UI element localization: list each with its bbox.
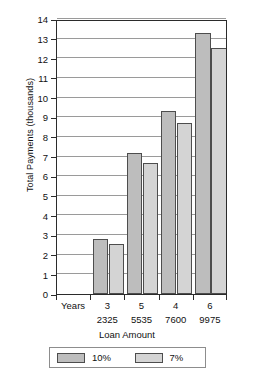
bars-layer — [57, 21, 226, 294]
y-axis-tick-label: 3 — [43, 231, 48, 241]
plot-area — [56, 20, 227, 295]
legend: 10%7% — [49, 347, 206, 368]
bar — [161, 111, 177, 294]
y-axis-ticks: 01234567891011121314 — [0, 20, 56, 295]
y-axis-tick: 11 — [38, 73, 56, 85]
y-axis-tick: 13 — [37, 34, 56, 46]
x-axis-years-value: 3 — [97, 300, 118, 311]
y-axis-tick-label: 9 — [43, 113, 48, 123]
bar-chart: Total Payments (thousands) 0123456789101… — [0, 0, 254, 375]
x-axis-title: Loan Amount — [0, 329, 254, 340]
y-axis-tick: 10 — [37, 93, 56, 105]
y-axis-tick: 5 — [43, 191, 56, 203]
x-axis-loan-amount-value: 2325 — [97, 314, 118, 325]
y-axis-tick: 1 — [43, 269, 56, 281]
y-axis-tick-label: 2 — [43, 251, 48, 261]
legend-swatch — [135, 353, 163, 363]
x-axis-loan-amount-value: 5535 — [131, 314, 152, 325]
x-axis-loan-amount-value: 7600 — [165, 314, 186, 325]
x-axis-years-value: 5 — [131, 300, 152, 311]
x-axis-category-label: 55535 — [131, 300, 152, 325]
y-axis-tick-label: 6 — [43, 172, 48, 182]
y-axis-tick-label: 5 — [43, 192, 48, 202]
y-axis-tick: 9 — [43, 112, 56, 124]
y-axis-tick: 3 — [43, 230, 56, 242]
bar — [143, 163, 159, 294]
x-axis-years-value: 4 — [165, 300, 186, 311]
y-axis-tick-label: 14 — [37, 15, 48, 25]
y-axis-tick: 12 — [37, 53, 56, 65]
x-axis-years-value: 6 — [199, 300, 220, 311]
legend-label: 7% — [170, 352, 184, 363]
x-axis-loan-amount-value: 9975 — [199, 314, 220, 325]
y-axis-tick-label: 0 — [43, 290, 48, 300]
x-axis-category-label: 32325 — [97, 300, 118, 325]
bar — [127, 153, 143, 294]
legend-item: 10% — [50, 352, 128, 363]
y-axis-tick: 14 — [37, 14, 56, 26]
y-axis-tick-label: 10 — [37, 94, 48, 104]
y-axis-tick-label: 8 — [43, 133, 48, 143]
y-axis-tick: 8 — [43, 132, 56, 144]
y-axis-tick-label: 1 — [43, 271, 48, 281]
y-axis-tick-label: 11 — [38, 74, 48, 84]
bar — [109, 244, 125, 294]
x-axis-category-label: 47600 — [165, 300, 186, 325]
y-axis-tick-label: 12 — [37, 55, 48, 65]
y-axis-tick: 6 — [43, 171, 56, 183]
bar — [211, 48, 226, 294]
legend-swatch — [57, 353, 85, 363]
y-axis-tick: 2 — [43, 250, 56, 262]
y-axis-tick-label: 4 — [43, 212, 48, 222]
y-axis-tick-label: 13 — [37, 35, 48, 45]
bar — [177, 123, 193, 294]
legend-label: 10% — [92, 352, 111, 363]
gridline — [57, 18, 226, 19]
legend-item: 7% — [128, 352, 206, 363]
bar — [93, 239, 109, 294]
bar — [195, 33, 211, 294]
y-axis-tick: 4 — [43, 210, 56, 222]
x-axis-category-label: 69975 — [199, 300, 220, 325]
y-axis-tick: 7 — [43, 152, 56, 164]
y-axis-tick-label: 7 — [43, 153, 48, 163]
